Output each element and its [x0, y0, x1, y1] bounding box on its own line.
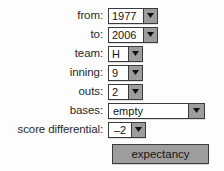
- outs-select[interactable]: 2: [108, 84, 143, 100]
- control-cell-inning: 9: [108, 65, 143, 81]
- outs-value: 2: [109, 85, 128, 99]
- control-cell-outs: 2: [108, 84, 143, 100]
- team-value: H: [109, 47, 128, 61]
- control-cell-from: 1977: [108, 8, 158, 24]
- label-score-differential: score differential:: [0, 121, 108, 138]
- label-outs: outs:: [0, 83, 108, 100]
- team-select[interactable]: H: [108, 46, 143, 62]
- score-differential-value: –2: [109, 123, 131, 137]
- to-year-select[interactable]: 2006: [108, 27, 158, 43]
- label-bases: bases:: [0, 102, 108, 119]
- submit-row: expectancy: [0, 144, 224, 164]
- expectancy-button[interactable]: expectancy: [112, 144, 209, 164]
- form-row-to: to: 2006: [0, 26, 224, 43]
- form-row-inning: inning: 9: [0, 64, 224, 81]
- form-row-from: from: 1977: [0, 7, 224, 24]
- score-differential-select[interactable]: –2: [108, 122, 146, 138]
- bases-select[interactable]: empty: [108, 103, 205, 119]
- chevron-down-icon[interactable]: [188, 104, 204, 118]
- bases-value: empty: [109, 104, 188, 118]
- chevron-down-icon[interactable]: [128, 47, 142, 61]
- control-cell-score-differential: –2: [108, 122, 146, 138]
- label-from: from:: [0, 7, 108, 24]
- from-year-value: 1977: [109, 9, 143, 23]
- chevron-down-icon[interactable]: [128, 85, 142, 99]
- control-cell-to: 2006: [108, 27, 158, 43]
- label-team: team:: [0, 45, 108, 62]
- chevron-down-icon[interactable]: [143, 9, 157, 23]
- label-inning: inning:: [0, 64, 108, 81]
- chevron-down-icon[interactable]: [131, 123, 145, 137]
- inning-select[interactable]: 9: [108, 65, 143, 81]
- control-cell-bases: empty: [108, 103, 205, 119]
- chevron-down-icon[interactable]: [143, 28, 157, 42]
- form-row-bases: bases: empty: [0, 102, 224, 119]
- control-cell-team: H: [108, 46, 143, 62]
- inning-value: 9: [109, 66, 128, 80]
- to-year-value: 2006: [109, 28, 143, 42]
- chevron-down-icon[interactable]: [128, 66, 142, 80]
- form-row-outs: outs: 2: [0, 83, 224, 100]
- form-row-score-differential: score differential: –2: [0, 121, 224, 138]
- form-row-team: team: H: [0, 45, 224, 62]
- run-expectancy-form: from: 1977 to: 2006 team: H: [0, 0, 224, 171]
- label-to: to:: [0, 26, 108, 43]
- from-year-select[interactable]: 1977: [108, 8, 158, 24]
